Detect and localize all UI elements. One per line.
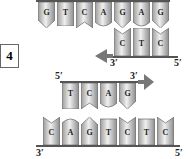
base-a: A [133,2,150,28]
new-5prime-label: 5′ [55,70,63,81]
bottom-5prime-label: 5′ [175,147,183,158]
base-t: T [62,83,79,109]
base-t: T [133,28,150,56]
base-c: C [119,117,136,145]
base-a: A [95,2,112,28]
new-3prime-label: 3′ [130,70,138,81]
base-g: G [38,2,55,28]
primer-3prime-label: 3′ [110,57,118,68]
base-c: C [43,117,60,145]
base-t: T [138,117,155,145]
base-t: T [57,2,74,26]
arrow-right-icon [138,74,154,90]
primer-backbone [108,56,178,58]
base-g: G [152,2,169,28]
base-c: C [81,83,98,109]
base-c: C [152,28,169,56]
bottom-backbone [36,145,180,147]
bottom-3prime-label: 3′ [36,147,44,158]
base-t: T [100,117,117,145]
base-g: G [114,2,131,28]
base-c: C [76,2,93,28]
base-c: C [114,28,131,56]
base-g: G [81,117,98,145]
primer-5prime-label: 5′ [174,57,182,68]
base-a: A [62,117,79,145]
base-a: A [100,83,117,109]
step-number-box: 4 [0,44,19,68]
base-c: C [157,117,174,145]
base-g: G [119,83,136,109]
